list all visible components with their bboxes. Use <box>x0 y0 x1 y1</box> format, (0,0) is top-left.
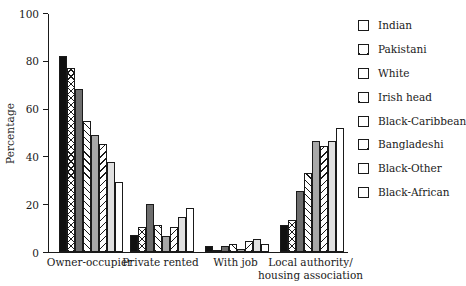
legend-item: Indian <box>358 14 458 38</box>
bar <box>205 246 213 252</box>
bar <box>213 250 221 252</box>
bar <box>154 225 162 252</box>
legend-swatch-icon <box>358 139 369 150</box>
y-axis-title: Percentage <box>4 14 16 253</box>
bar-group <box>59 14 123 252</box>
legend-swatch-icon <box>358 20 369 31</box>
bar <box>221 246 229 252</box>
bar <box>107 162 115 252</box>
legend-item-label: Irish head <box>378 92 432 103</box>
y-axis-tick-label: 100 <box>19 8 39 19</box>
legend-swatch-icon <box>358 68 369 79</box>
bar <box>146 204 154 252</box>
y-axis-tick-label: 60 <box>26 104 39 115</box>
legend-item-label: Indian <box>378 20 412 31</box>
legend-item-label: Pakistani <box>378 44 427 55</box>
y-axis-tick: 0 <box>43 252 48 253</box>
y-axis-tick: 100 <box>43 13 48 14</box>
legend-item: Pakistani <box>358 38 458 62</box>
bar <box>130 235 138 252</box>
legend-swatch-icon <box>358 92 369 103</box>
bars-layer <box>49 14 348 252</box>
legend-item: Black-Caribbean <box>358 109 458 133</box>
bar <box>59 56 67 252</box>
y-axis-tick: 60 <box>43 109 48 110</box>
bar <box>253 239 261 252</box>
bar <box>115 182 123 253</box>
bar-group <box>280 14 344 252</box>
x-axis-label: Local authority/ housing association <box>251 256 371 282</box>
bar <box>229 244 237 252</box>
legend-item-label: Bangladeshi <box>378 139 444 150</box>
bar <box>75 89 83 252</box>
bar <box>91 135 99 252</box>
chart-legend: IndianPakistaniWhiteIrish headBlack-Cari… <box>358 14 458 204</box>
legend-item-label: Black-Other <box>378 163 442 174</box>
bar <box>288 220 296 252</box>
bar <box>304 173 312 252</box>
bar <box>296 191 304 252</box>
legend-item: White <box>358 62 458 86</box>
bar <box>162 236 170 252</box>
x-axis-line <box>48 252 348 253</box>
bar <box>320 146 328 252</box>
y-axis-tick-label: 40 <box>26 152 39 163</box>
bar <box>67 68 75 252</box>
legend-item-label: Black-African <box>378 187 450 198</box>
bar <box>83 121 91 252</box>
plot-area: 020406080100 <box>48 14 348 253</box>
bar <box>138 227 146 252</box>
x-axis-labels: Owner-occupierPrivate rentedWith jobLoca… <box>48 256 348 286</box>
legend-item: Black-African <box>358 181 458 205</box>
bar <box>237 249 245 252</box>
bar <box>170 227 178 252</box>
legend-item: Black-Other <box>358 157 458 181</box>
legend-swatch-icon <box>358 44 369 55</box>
bar <box>261 244 269 252</box>
legend-item-label: Black-Caribbean <box>378 116 466 127</box>
bar <box>99 144 107 252</box>
bar <box>178 217 186 252</box>
y-axis-tick: 40 <box>43 156 48 157</box>
legend-item: Irish head <box>358 85 458 109</box>
bar <box>186 208 194 252</box>
legend-swatch-icon <box>358 163 369 174</box>
legend-item: Bangladeshi <box>358 133 458 157</box>
y-axis-tick-label: 20 <box>26 199 39 210</box>
bar <box>280 225 288 252</box>
bar <box>336 128 344 252</box>
bar <box>245 241 253 252</box>
y-axis-tick: 80 <box>43 61 48 62</box>
y-axis-tick-label: 80 <box>26 56 39 67</box>
bar <box>328 141 336 252</box>
legend-item-label: White <box>378 68 409 79</box>
y-axis-tick: 20 <box>43 204 48 205</box>
legend-swatch-icon <box>358 187 369 198</box>
bar-group <box>205 14 269 252</box>
legend-swatch-icon <box>358 116 369 127</box>
bar-group <box>130 14 194 252</box>
bar <box>312 141 320 252</box>
